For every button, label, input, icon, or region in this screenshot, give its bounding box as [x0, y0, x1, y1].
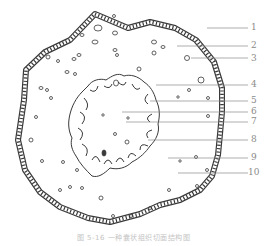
- label-7: 7: [251, 117, 257, 126]
- leader-lines: [122, 28, 248, 173]
- label-8: 8: [251, 135, 257, 144]
- label-2: 2: [251, 41, 257, 50]
- label-3: 3: [251, 54, 257, 63]
- cross-section-diagram: [0, 0, 267, 246]
- outer-wall: [18, 14, 222, 222]
- label-1: 1: [251, 23, 257, 32]
- inner-cavity: [69, 74, 160, 176]
- label-4: 4: [251, 80, 257, 89]
- figure-caption: 图 5-16 一种囊状组织切面结构图: [0, 232, 267, 242]
- label-6: 6: [251, 107, 257, 116]
- label-9: 9: [251, 153, 257, 162]
- label-10: 10: [248, 168, 259, 177]
- label-5: 5: [251, 96, 257, 105]
